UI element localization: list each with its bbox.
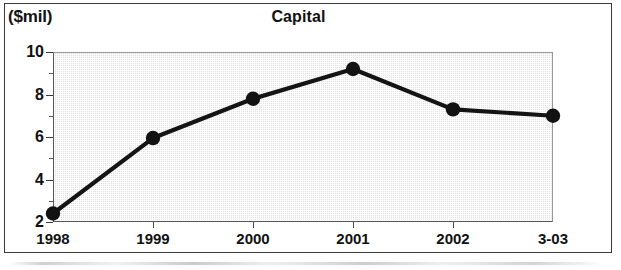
x-tick-label-1999: 1999 (136, 230, 169, 247)
data-point-2002 (446, 102, 460, 116)
chart-figure: ($mil) Capital 108642 199819992000200120… (0, 0, 621, 270)
y-tick-2 (46, 222, 53, 223)
x-tick-1999 (153, 222, 154, 228)
y-tick-label-4: 4 (35, 171, 44, 189)
y-minor-tick-9 (49, 73, 53, 74)
y-tick-label-6: 6 (35, 128, 44, 146)
x-tick-2000 (253, 222, 254, 228)
y-tick-8 (46, 95, 53, 96)
x-tick-label-3-03: 3-03 (538, 230, 568, 247)
plot-region: 108642 199819992000200120023-03 (53, 52, 553, 222)
page-title: Capital (0, 8, 621, 26)
y-tick-10 (46, 52, 53, 53)
x-tick-label-2001: 2001 (336, 230, 369, 247)
x-tick-label-2002: 2002 (436, 230, 469, 247)
x-tick-label-1998: 1998 (36, 230, 69, 247)
y-tick-4 (46, 180, 53, 181)
scan-artifact-line (8, 262, 604, 265)
y-minor-tick-5 (49, 158, 53, 159)
data-point-1998 (46, 206, 60, 220)
y-tick-label-10: 10 (26, 43, 44, 61)
data-line-capital (53, 69, 553, 214)
y-tick-6 (46, 137, 53, 138)
data-point-1999 (146, 131, 160, 145)
chart-title-text: Capital (271, 8, 325, 25)
x-tick-2002 (453, 222, 454, 228)
data-point-2000 (246, 92, 260, 106)
y-tick-label-2: 2 (35, 213, 44, 231)
x-tick-label-2000: 2000 (236, 230, 269, 247)
data-point-3-03 (546, 109, 560, 123)
data-series-layer (53, 52, 553, 222)
y-tick-label-8: 8 (35, 86, 44, 104)
x-tick-2001 (353, 222, 354, 228)
data-point-2001 (346, 62, 360, 76)
y-minor-tick-7 (49, 116, 53, 117)
y-minor-tick-3 (49, 201, 53, 202)
